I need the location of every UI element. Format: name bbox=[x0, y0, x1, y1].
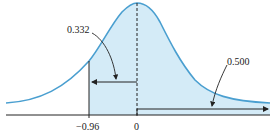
tick-label-center: 0 bbox=[134, 121, 139, 132]
normal-curve-diagram: 0.332 0.500 −0.96 0 bbox=[0, 0, 275, 138]
right-area-label: 0.500 bbox=[227, 56, 250, 67]
tick-label-left: −0.96 bbox=[76, 121, 99, 132]
left-area-label: 0.332 bbox=[67, 24, 90, 35]
